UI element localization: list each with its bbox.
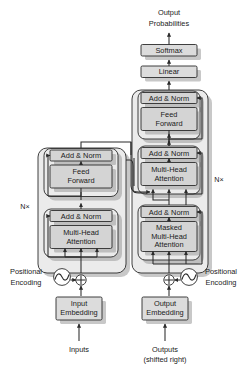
encoder-feed-forward-label-1: Feed bbox=[73, 167, 90, 176]
linear-label: Linear bbox=[159, 67, 180, 76]
output-embedding-label-2: Embedding bbox=[146, 308, 183, 317]
decoder-positional-encoding-label-1: Positional bbox=[205, 267, 237, 276]
encoder-add-norm-upper-label: Add & Norm bbox=[61, 151, 101, 160]
encoder-positional-encoding-label-2: Encoding bbox=[11, 278, 42, 287]
encoder-nx-label: N× bbox=[20, 202, 29, 211]
encoder-input-section: Positional Encoding Input Embedding Inpu… bbox=[10, 267, 106, 354]
decoder-stack: Add & Norm Feed Forward Add & Norm Multi… bbox=[132, 90, 212, 277]
encoder-mha-label-2: Attention bbox=[66, 237, 95, 246]
decoder-mha-label-1: Multi-Head bbox=[151, 165, 187, 174]
output-embedding-label-1: Output bbox=[154, 299, 176, 308]
decoder-mha-label-2: Attention bbox=[154, 174, 183, 183]
encoder-feed-forward-label-2: Forward bbox=[67, 176, 94, 185]
transformer-architecture-figure: Add & Norm Feed Forward Add & Norm Multi… bbox=[0, 0, 244, 367]
decoder-positional-encoding-label-2: Encoding bbox=[206, 278, 237, 287]
decoder-input-section: Positional Encoding Output Embedding Out… bbox=[142, 267, 237, 364]
encoder-add-norm-lower-label: Add & Norm bbox=[61, 212, 101, 221]
softmax-label: Softmax bbox=[155, 46, 182, 55]
encoder-stack: Add & Norm Feed Forward Add & Norm Multi… bbox=[38, 148, 130, 277]
inputs-label: Inputs bbox=[69, 345, 89, 354]
encoder-mha-label-1: Multi-Head bbox=[63, 228, 99, 237]
decoder-add-norm-middle-label: Add & Norm bbox=[149, 149, 189, 158]
diagram-canvas: Add & Norm Feed Forward Add & Norm Multi… bbox=[0, 0, 244, 367]
output-probabilities-label-2: Probabilities bbox=[149, 19, 190, 28]
input-embedding-label-2: Embedding bbox=[60, 308, 97, 317]
output-head: Linear Softmax Output Probabilities bbox=[141, 8, 201, 90]
outputs-label-2: (shifted right) bbox=[143, 355, 186, 364]
decoder-feed-forward-label-2: Forward bbox=[155, 119, 182, 128]
input-embedding-label-1: Input bbox=[71, 299, 87, 308]
decoder-feed-forward-label-1: Feed bbox=[161, 110, 178, 119]
outputs-label-1: Outputs bbox=[152, 345, 178, 354]
encoder-positional-encoding-label-1: Positional bbox=[10, 267, 42, 276]
decoder-masked-label-3: Attention bbox=[154, 240, 183, 249]
decoder-add-norm-bottom-label: Add & Norm bbox=[149, 208, 189, 217]
decoder-nx-label: N× bbox=[214, 175, 223, 184]
decoder-add-norm-top-label: Add & Norm bbox=[149, 94, 189, 103]
output-probabilities-label-1: Output bbox=[158, 8, 180, 17]
